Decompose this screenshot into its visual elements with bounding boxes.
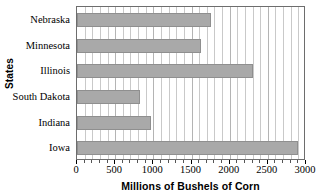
y-axis-tick-labels: NebraskaMinnesotaIllinoisSouth DakotaInd… (0, 6, 73, 160)
x-tick-minor (213, 160, 214, 163)
x-axis-tick-label: 2500 (256, 164, 277, 175)
x-tick-minor (175, 160, 176, 163)
x-tick-minor (99, 160, 100, 163)
x-tick-minor (221, 160, 222, 163)
x-axis-tick-label: 1000 (142, 164, 163, 175)
bar (77, 90, 140, 104)
x-tick-minor (160, 160, 161, 163)
x-tick-minor (129, 160, 130, 163)
bar (77, 13, 211, 27)
y-axis-tick-label: South Dakota (0, 90, 70, 101)
x-tick-minor (206, 160, 207, 163)
bar (77, 39, 201, 53)
bar-chart-figure: States NebraskaMinnesotaIllinoisSouth Da… (0, 0, 325, 196)
x-axis-tick-labels: 050010001500200025003000 (0, 164, 325, 178)
y-axis-tick-label: Minnesota (0, 39, 70, 50)
x-tick-minor (145, 160, 146, 163)
x-tick-minor (244, 160, 245, 163)
x-axis-tick-label: 0 (73, 164, 78, 175)
x-tick-minor (198, 160, 199, 163)
x-axis-tick-label: 500 (106, 164, 122, 175)
x-tick-minor (183, 160, 184, 163)
y-axis-tick-label: Indiana (0, 116, 70, 127)
x-tick-minor (297, 160, 298, 163)
x-axis-tick-label: 2000 (218, 164, 239, 175)
x-tick-minor (84, 160, 85, 163)
x-tick-minor (107, 160, 108, 163)
x-tick-minor (122, 160, 123, 163)
y-axis-tick-label: Illinois (0, 65, 70, 76)
bar-series (77, 7, 304, 159)
bar (77, 64, 253, 78)
x-tick-minor (290, 160, 291, 163)
bar (77, 141, 298, 155)
y-axis-tick-label: Iowa (0, 142, 70, 153)
x-tick-minor (137, 160, 138, 163)
x-axis-tick-label: 1500 (180, 164, 201, 175)
x-tick-minor (168, 160, 169, 163)
x-axis-title: Millions of Bushels of Corn (76, 180, 305, 192)
x-tick-minor (259, 160, 260, 163)
x-tick-minor (91, 160, 92, 163)
plot-area (76, 6, 305, 160)
bar (77, 116, 151, 130)
x-axis-tick-label: 3000 (295, 164, 316, 175)
x-tick-minor (274, 160, 275, 163)
y-axis-tick-label: Nebraska (0, 13, 70, 24)
x-tick-minor (236, 160, 237, 163)
x-tick-minor (252, 160, 253, 163)
x-tick-minor (282, 160, 283, 163)
